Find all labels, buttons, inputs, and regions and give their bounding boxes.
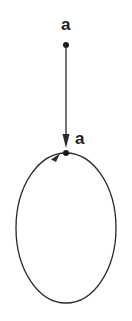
bottom-node: [63, 150, 69, 156]
edge-self-loop: [16, 153, 116, 303]
arrowhead-icon: [63, 134, 70, 148]
top-node-label: a: [61, 15, 71, 34]
top-node: [63, 42, 69, 48]
diagram-canvas: a a: [0, 0, 132, 321]
bottom-node-label: a: [75, 129, 85, 148]
edge-top-to-bottom: [63, 48, 70, 148]
